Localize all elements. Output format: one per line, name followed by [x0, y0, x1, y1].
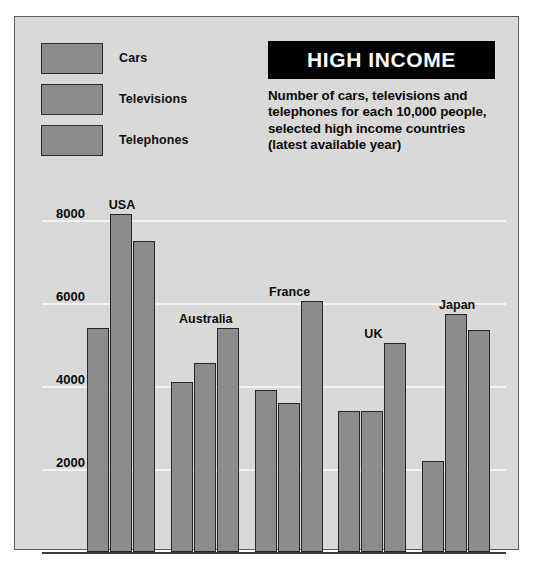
plot-area: 2000400060008000 USAAustraliaFranceUKJap…	[42, 187, 506, 552]
bar-usa-telephones	[133, 241, 155, 552]
y-tick-2000: 2000	[56, 455, 85, 470]
bar-uk-televisions	[361, 411, 383, 552]
bar-australia-televisions	[194, 363, 216, 552]
legend-label-cars: Cars	[119, 51, 147, 65]
bar-japan-cars	[422, 461, 444, 552]
legend-swatch-cars	[41, 43, 103, 74]
bar-france-cars	[255, 390, 277, 552]
legend-item-telephones: Telephones	[41, 121, 251, 159]
legend-swatch-telephones	[41, 125, 103, 156]
chart-subtitle: Number of cars, televisions and telephon…	[268, 88, 495, 153]
legend-item-cars: Cars	[41, 39, 251, 77]
bar-group-usa: USA	[87, 187, 171, 552]
bar-france-telephones	[301, 301, 323, 552]
y-axis-labels: 2000400060008000	[42, 187, 87, 552]
chart-title: HIGH INCOME	[307, 48, 456, 72]
title-block: HIGH INCOME Number of cars, televisions …	[268, 41, 495, 153]
bar-uk-cars	[338, 411, 360, 552]
y-tick-6000: 6000	[56, 289, 85, 304]
bar-group-australia: Australia	[171, 187, 255, 552]
bar-usa-cars	[87, 328, 109, 552]
bar-france-televisions	[278, 403, 300, 552]
bar-japan-televisions	[445, 314, 467, 552]
bar-group-france: France	[255, 187, 339, 552]
plot-panel: USAAustraliaFranceUKJapan	[87, 187, 506, 552]
bar-australia-cars	[171, 382, 193, 552]
bar-group-uk: UK	[338, 187, 422, 552]
group-label-uk: UK	[364, 327, 382, 343]
group-label-france: France	[269, 285, 310, 301]
chart-legend: Cars Televisions Telephones	[41, 39, 251, 162]
chart-figure: Cars Televisions Telephones HIGH INCOME …	[14, 16, 519, 550]
legend-swatch-televisions	[41, 84, 103, 115]
bar-uk-telephones	[384, 343, 406, 552]
legend-label-televisions: Televisions	[119, 92, 187, 106]
legend-label-telephones: Telephones	[119, 133, 189, 147]
y-tick-8000: 8000	[56, 206, 85, 221]
bar-group-japan: Japan	[422, 187, 506, 552]
group-label-australia: Australia	[179, 312, 233, 328]
axis-baseline	[42, 552, 506, 554]
bar-japan-telephones	[468, 330, 490, 552]
bar-groups: USAAustraliaFranceUKJapan	[87, 187, 506, 552]
y-tick-4000: 4000	[56, 372, 85, 387]
legend-item-televisions: Televisions	[41, 80, 251, 118]
bar-usa-televisions	[110, 214, 132, 552]
bar-australia-telephones	[217, 328, 239, 552]
group-label-usa: USA	[109, 198, 135, 214]
title-banner: HIGH INCOME	[268, 41, 495, 79]
group-label-japan: Japan	[439, 298, 475, 314]
